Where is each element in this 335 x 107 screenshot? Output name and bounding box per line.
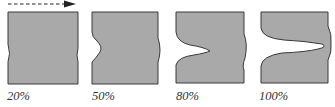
stage-shape-100	[261, 12, 331, 83]
stage-label-100: 100%	[259, 89, 288, 104]
direction-arrow-icon	[8, 1, 76, 8]
stage-label-80: 80%	[176, 89, 199, 104]
stage-shape-80	[176, 12, 246, 83]
stage-shape-20	[8, 12, 78, 84]
stage-label-50: 50%	[92, 89, 115, 104]
stage-label-20: 20%	[7, 89, 30, 104]
stage-shape-50	[92, 12, 160, 84]
